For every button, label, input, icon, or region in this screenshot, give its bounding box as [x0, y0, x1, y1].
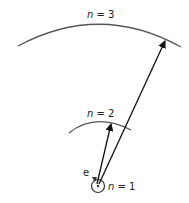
- energy-level-diagram: n = 3 n = 2 n = 1 e: [0, 0, 189, 203]
- orbit-arc-n2: [69, 122, 131, 133]
- orbit-label-n3: n = 3: [87, 9, 114, 20]
- orbit-label-n1: n = 1: [108, 181, 135, 192]
- transition-arrow-n1-to-n2: [97, 124, 111, 184]
- orbit-arc-n3: [18, 24, 181, 47]
- electron-label: e: [83, 167, 89, 178]
- orbit-label-n2: n = 2: [87, 108, 114, 119]
- nucleus-dot: [97, 185, 99, 187]
